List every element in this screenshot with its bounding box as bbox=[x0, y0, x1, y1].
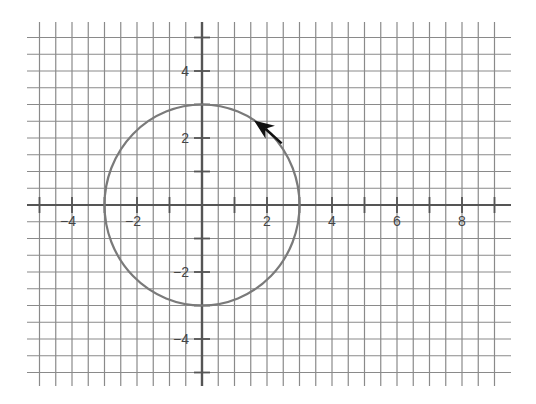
x-tick-label: 4 bbox=[328, 213, 336, 229]
x-tick-label: 8 bbox=[458, 213, 466, 229]
axes bbox=[27, 22, 511, 386]
direction-arrow-icon bbox=[254, 121, 282, 144]
circle-plot: −4−2246842−2−4 bbox=[0, 0, 536, 404]
y-tick-label: 2 bbox=[181, 130, 189, 146]
plot-canvas: −4−2246842−2−4 bbox=[0, 0, 536, 404]
arrow-tail bbox=[265, 129, 281, 144]
y-tick-label: −2 bbox=[173, 264, 189, 280]
grid-lines bbox=[27, 22, 511, 386]
y-tick-label: 4 bbox=[181, 63, 189, 79]
x-tick-label: −2 bbox=[125, 213, 141, 229]
x-tick-label: 6 bbox=[393, 213, 401, 229]
x-tick-label: 2 bbox=[263, 213, 271, 229]
x-tick-label: −4 bbox=[60, 213, 76, 229]
y-tick-label: −4 bbox=[173, 331, 189, 347]
